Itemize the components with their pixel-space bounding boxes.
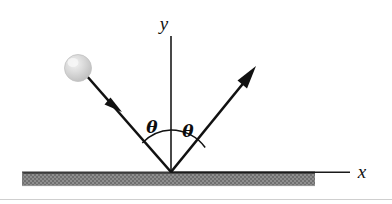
x-axis-label: x xyxy=(357,161,367,182)
figure-bottom-rule xyxy=(0,199,392,200)
ball-highlight xyxy=(68,58,79,67)
y-axis-label: y xyxy=(158,13,169,34)
ball-icon xyxy=(65,55,92,82)
incident-ray-line xyxy=(86,75,171,172)
ground-bar-body xyxy=(22,173,315,187)
physics-diagram-figure: y x θ θ xyxy=(0,0,392,204)
coordinate-axes xyxy=(171,36,350,173)
ball-group xyxy=(65,55,92,82)
incident-ray-group xyxy=(86,75,171,172)
incident-angle-label: θ xyxy=(146,117,158,137)
reflected-ray-group xyxy=(171,66,256,172)
reflection-diagram-canvas: y x θ θ xyxy=(0,0,392,204)
reflected-angle-label: θ xyxy=(182,121,194,141)
ground-surface xyxy=(22,173,315,187)
